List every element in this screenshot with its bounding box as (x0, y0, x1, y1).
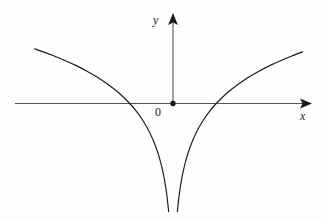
graph-figure: y x 0 (0, 0, 327, 221)
origin-dot (170, 101, 175, 106)
x-axis-label: x (300, 110, 305, 122)
curve-right-branch (177, 52, 302, 212)
y-axis-label: y (153, 14, 158, 26)
origin-label: 0 (155, 106, 161, 118)
graph-canvas (0, 0, 327, 221)
curve-left-branch (35, 49, 169, 212)
